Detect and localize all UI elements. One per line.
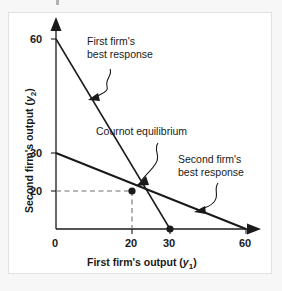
- y-axis-title-suffix: ): [23, 88, 35, 92]
- first-firm-best-response-label: First firm's best response: [87, 35, 153, 60]
- x-axis-arrowhead: [247, 224, 261, 235]
- y-tick-label-60: 60: [30, 33, 42, 45]
- scan-artifact: [56, 0, 59, 5]
- cournot-annotation-arrow: [141, 143, 158, 181]
- y-axis-title-sub: 2: [29, 92, 38, 96]
- x-axis-title-prefix: First firm's output (: [87, 256, 183, 268]
- second-firm-best-response-label: Second firm's best response: [178, 153, 244, 178]
- figure-container: 60 30 20 0 20 30 60 First firm's best re…: [0, 0, 282, 291]
- equilibrium-guide-lines: [56, 191, 132, 229]
- equilibrium-point-marker: [128, 187, 135, 194]
- cournot-equilibrium-label: Cournot equilibrium: [96, 125, 187, 138]
- chart-frame: 60 30 20 0 20 30 60 First firm's best re…: [8, 12, 272, 274]
- x-intercept-point-marker: [166, 225, 173, 232]
- first-firm-annotation-arrow: [96, 69, 111, 97]
- x-tick-label-20: 20: [125, 237, 137, 249]
- second-firm-annotation-arrow: [200, 183, 218, 210]
- second-firm-label-line2: best response: [178, 166, 244, 178]
- cournot-annotation-arrowhead: [136, 176, 149, 186]
- x-tick-label-0: 0: [52, 237, 58, 249]
- x-axis-title-suffix: ): [193, 256, 197, 268]
- y-axis-arrowhead: [51, 17, 62, 31]
- first-firm-label-line2: best response: [87, 48, 153, 60]
- second-firm-label-line1: Second firm's: [178, 153, 241, 165]
- first-firm-label-line1: First firm's: [87, 35, 135, 47]
- x-axis-title: First firm's output (y1): [87, 256, 197, 271]
- x-tick-label-60: 60: [239, 237, 251, 249]
- y-axis-title-prefix: Second firm's output (: [23, 102, 35, 213]
- x-tick-label-30: 30: [163, 237, 175, 249]
- y-axis-title: Second firm's output (y2): [23, 88, 38, 213]
- second-firm-annotation-arrowhead: [194, 206, 206, 214]
- y-axis-title-var: y: [23, 96, 35, 102]
